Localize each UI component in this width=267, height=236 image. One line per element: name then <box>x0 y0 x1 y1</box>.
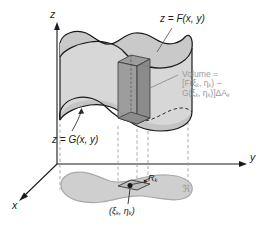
leader-bottom-surface <box>72 112 81 131</box>
point-open: (ξ <box>109 206 116 216</box>
leader-bottom-surface-arrowhead <box>78 108 84 114</box>
volume-l2-post: ) − <box>211 78 221 88</box>
label-sample-point: (ξk, ηk) <box>109 207 135 217</box>
volume-element-prism <box>118 55 150 124</box>
x-axis <box>24 164 57 196</box>
label-region-R: ℜ <box>182 184 190 194</box>
diagram-canvas <box>0 0 267 236</box>
figure-container: z = F(x, y) z = G(x, y) Volume = [F(ξk, … <box>0 0 267 236</box>
label-y-axis: y <box>250 152 255 163</box>
point-close: ) <box>132 206 135 216</box>
volume-l3-pre: G( <box>182 88 192 98</box>
volume-l3-k3: k <box>227 92 230 98</box>
base-region-group <box>61 172 192 203</box>
label-z-axis: z <box>50 9 55 20</box>
z-axis-arrowhead <box>54 22 60 30</box>
volume-l3-post: )]ΔA <box>210 88 227 98</box>
label-Rk-sub: k <box>155 177 158 183</box>
volume-l2-pre: [F( <box>182 78 193 88</box>
point-mid: , η <box>119 206 129 216</box>
sample-point-dot <box>128 183 133 188</box>
y-axis-arrowhead <box>239 161 247 167</box>
label-x-axis: x <box>12 200 17 211</box>
label-top-surface: z = F(x, y) <box>160 14 205 25</box>
label-bottom-surface: z = G(x, y) <box>52 135 98 146</box>
label-volume-annotation: Volume = [F(ξk, ηk) − G(ξk, ηk)]ΔAk <box>182 70 230 99</box>
label-subregion-Rk: Rk <box>148 174 157 184</box>
volume-line-3: G(ξk, ηk)]ΔAk <box>182 89 230 99</box>
